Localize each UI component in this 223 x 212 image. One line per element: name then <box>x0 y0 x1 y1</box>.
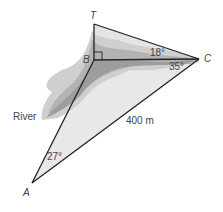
point-label-a: A <box>23 188 30 198</box>
point-label-c: C <box>204 54 211 64</box>
angle-label-27: 27° <box>47 152 62 162</box>
river-label: River <box>13 112 36 122</box>
diagram-canvas <box>0 0 223 212</box>
angle-label-35: 35° <box>169 62 184 72</box>
point-label-t: T <box>90 11 96 21</box>
length-label-ac: 400 m <box>126 116 154 126</box>
point-label-b: B <box>83 55 90 65</box>
angle-label-18: 18° <box>150 48 165 58</box>
